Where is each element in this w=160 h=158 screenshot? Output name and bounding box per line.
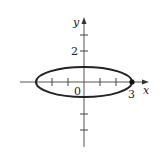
x-axis-label: x	[143, 84, 150, 97]
ellipse-diagram: y 2 0 3 x	[0, 0, 160, 158]
y-axis-arrow-icon	[82, 17, 87, 24]
x-tick-label: 3	[128, 88, 135, 101]
origin-label: 0	[74, 85, 81, 98]
y-tick-label: 2	[71, 45, 78, 58]
vertex-point	[129, 79, 134, 84]
y-axis-label: y	[72, 16, 80, 29]
